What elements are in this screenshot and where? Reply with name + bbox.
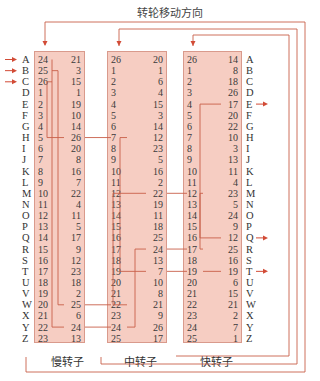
wiring-lines bbox=[0, 0, 320, 381]
